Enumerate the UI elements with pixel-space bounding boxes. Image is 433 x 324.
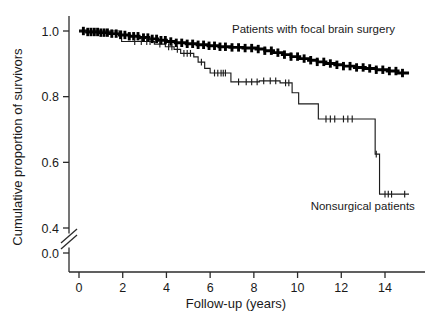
x-tick-label-8: 8 (250, 281, 257, 295)
y-axis-title: Cumulative proportion of survivors (10, 48, 25, 246)
y-tick-label-0.8: 0.8 (42, 90, 59, 104)
x-tick-label-10: 10 (291, 281, 305, 295)
x-axis-title: Follow-up (years) (186, 296, 286, 311)
y-tick-label-0.6: 0.6 (42, 156, 59, 170)
y-tick-label-0.0: 0.0 (42, 247, 59, 261)
y-tick-label-1.0: 1.0 (42, 25, 59, 39)
axes-group (69, 16, 425, 272)
x-tick-label-0: 0 (76, 281, 83, 295)
censor-marks-group (83, 27, 404, 198)
series-annotation-1: Patients with focal brain surgery (232, 23, 395, 35)
x-tick-label-12: 12 (334, 281, 348, 295)
y-tick-label-0.4: 0.4 (42, 222, 59, 236)
data-series-group (79, 31, 409, 194)
figure-container: 1.00.80.60.40.002468101214 Patients with… (0, 0, 433, 324)
x-tick-label-2: 2 (119, 281, 126, 295)
x-tick-label-14: 14 (378, 281, 392, 295)
series-annotation-2: Nonsurgical patients (311, 200, 415, 212)
survival-curve-chart: 1.00.80.60.40.002468101214 Patients with… (0, 0, 433, 324)
curve-nonsurgical (79, 31, 409, 194)
x-tick-label-6: 6 (207, 281, 214, 295)
x-tick-label-4: 4 (163, 281, 170, 295)
